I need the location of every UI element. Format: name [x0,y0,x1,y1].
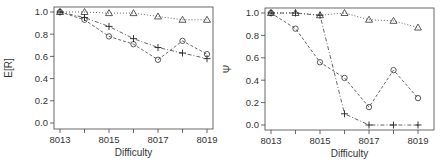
y-tick-label: 0.4 [35,73,48,84]
plus-marker [415,122,422,129]
y-tick-label: 0.2 [246,97,259,108]
x-tick-label: 8015 [309,135,330,146]
triangle-marker [106,10,113,16]
triangle-marker [415,24,422,30]
y-axis-label: Ψ [222,65,233,73]
y-tick-label: 1.0 [246,7,259,18]
plot-frame [265,8,434,130]
x-tick-label: 8013 [260,135,281,146]
x-axis-label: Difficulty [115,147,153,158]
y-tick-label: 0.6 [35,51,48,62]
right-plot: 0.00.20.40.60.81.08013801580178019Diffic… [222,7,434,159]
plus-marker [341,110,348,117]
y-tick-label: 0.0 [246,119,259,130]
y-axis-label: E[R] [3,58,14,78]
y-tick-label: 0.2 [35,95,48,106]
series-triangle [57,9,211,23]
left-plot: 0.00.20.40.60.81.08013801580178019Diffic… [3,6,218,158]
triangle-marker [130,10,137,16]
plus-marker [155,44,162,51]
plus-marker [204,55,211,62]
x-axis-label: Difficulty [331,148,369,159]
y-tick-label: 0.4 [246,75,259,86]
triangle-marker [155,13,162,19]
x-tick-label: 8019 [407,135,428,146]
x-tick-label: 8017 [358,135,379,146]
plus-marker [390,122,397,129]
plus-marker [106,23,113,30]
y-tick-label: 0.8 [35,29,48,40]
triangle-marker [204,16,211,22]
plus-marker [130,35,137,42]
plot-frame [54,7,213,129]
series-plus [268,10,422,129]
x-tick-label: 8015 [98,134,119,145]
triangle-marker [341,10,348,16]
series-plus [57,9,211,63]
y-tick-label: 0.8 [246,30,259,41]
plus-marker [366,122,373,129]
triangle-marker [81,9,88,15]
y-tick-label: 0.6 [246,52,259,63]
chart-canvas: 0.00.20.40.60.81.08013801580178019Diffic… [0,0,442,167]
circle-marker [415,95,420,100]
series-circle [268,10,420,109]
triangle-marker [390,17,397,23]
circle-marker [342,75,347,80]
circle-marker [293,26,298,31]
plus-marker [179,50,186,57]
y-tick-label: 0.0 [35,117,48,128]
x-tick-label: 8017 [147,134,168,145]
x-tick-label: 8013 [49,134,70,145]
y-tick-label: 1.0 [35,6,48,17]
x-tick-label: 8019 [196,134,217,145]
